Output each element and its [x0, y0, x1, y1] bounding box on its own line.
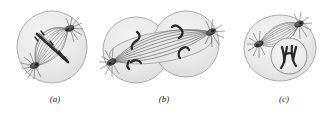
panel-caption-a: (a) — [35, 95, 75, 104]
nucleus-c — [271, 38, 307, 74]
mitosis-figure: (a) (b) (c) — [0, 0, 322, 114]
panel-caption-b: (b) — [144, 95, 184, 104]
panel-caption-c: (c) — [264, 95, 304, 104]
panel-a — [17, 11, 87, 83]
